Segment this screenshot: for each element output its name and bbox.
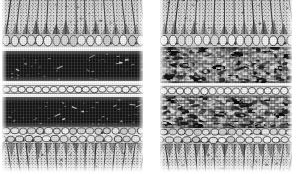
band-upper-dark-left [2, 51, 143, 81]
palisade-stipple-texture [2, 143, 143, 172]
mottled-stipple-texture [160, 47, 292, 83]
band-upper-cell-row-left [2, 34, 143, 47]
band-upper-cell-row-right [160, 34, 292, 47]
dark-band-top-edge [2, 51, 143, 56]
band-lower-dark-left [2, 97, 143, 127]
band-lower-palisade-left [2, 143, 143, 172]
band-upper-mottled-right [160, 47, 292, 83]
panel-right-content [160, 0, 292, 172]
band-upper-palisade-left [2, 0, 143, 34]
cell-row-gradient [2, 85, 143, 94]
mottled-stipple-texture [160, 96, 292, 128]
band-lower-palisade-right [160, 144, 292, 172]
cell-row-gradient [2, 127, 143, 143]
cell-row-gradient [160, 128, 292, 144]
cell-row-gradient [160, 34, 292, 47]
palisade-stipple-texture [160, 0, 292, 34]
band-mid-cell-row-right [160, 86, 292, 96]
micrograph-panel-right [160, 0, 292, 172]
dark-band-top-edge [2, 97, 143, 102]
palisade-stipple-texture [160, 144, 292, 172]
figure-root [0, 0, 296, 174]
band-lower-cell-row-right [160, 128, 292, 144]
cell-row-gradient [160, 86, 292, 96]
band-mid-cell-row-left [2, 85, 143, 94]
micrograph-panel-left [2, 0, 143, 172]
palisade-stipple-texture [2, 0, 143, 34]
panel-left-content [2, 0, 143, 172]
band-lower-cell-row-left [2, 127, 143, 143]
band-upper-palisade-right [160, 0, 292, 34]
band-lower-mottled-right [160, 96, 292, 128]
cell-row-gradient [2, 34, 143, 47]
